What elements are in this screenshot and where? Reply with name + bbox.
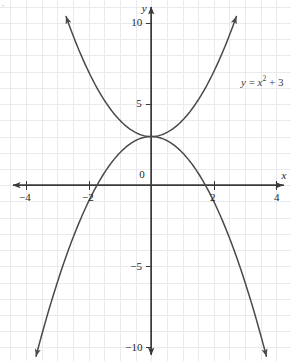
x-tick-label--4: −4	[19, 191, 31, 203]
graph-canvas	[0, 0, 291, 361]
x-tick-label-4: 4	[274, 191, 280, 203]
x-tick-label--2: −2	[82, 191, 94, 203]
parabola-up-curve	[151, 17, 236, 137]
graph-figure: • −4 −2 2 4 10 5 −5 −10 0 x y y = x2 + 3	[0, 0, 291, 361]
equation-annotation: y = x2 + 3	[241, 74, 283, 88]
corner-speck: •	[2, 4, 6, 8]
grid-lines	[0, 0, 291, 361]
y-tick-label-10: 10	[131, 16, 142, 28]
x-tick-label-2: 2	[210, 191, 216, 203]
y-axis-label: y	[142, 2, 147, 14]
equation-equals: =	[246, 76, 258, 88]
y-tick-label-5: 5	[136, 97, 142, 109]
origin-label: 0	[139, 168, 145, 180]
equation-tail: + 3	[266, 76, 283, 88]
y-tick-label--10: −10	[125, 341, 142, 353]
parabola-up-left-branch	[66, 17, 151, 137]
x-axis-label: x	[282, 169, 287, 181]
y-tick-label--5: −5	[130, 260, 142, 272]
